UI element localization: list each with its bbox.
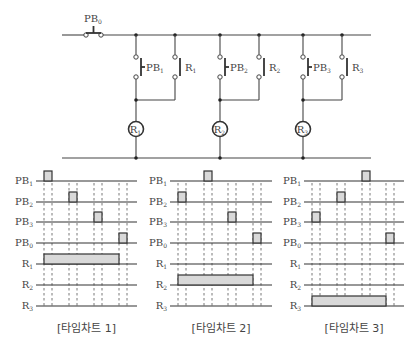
signal-pulse [362, 171, 370, 181]
signal-pulse [312, 212, 320, 222]
pb-contact-top [301, 55, 305, 59]
signal-row-r2: R2 [290, 279, 404, 291]
relay-contact-bottom [257, 75, 261, 79]
timing-charts: PB1PB2PB3PB0R1R2R3[타임차트 1]PB1PB2PB3PB0R1… [15, 171, 404, 335]
signal-pulse [178, 192, 186, 202]
chart-caption: [타임차트 1] [57, 322, 116, 335]
signal-row-pb0: PB0 [149, 233, 272, 249]
signal-row-pb2: PB2 [149, 192, 272, 208]
signal-label: PB3 [149, 216, 167, 228]
branch-1: PB1R1R1 [129, 33, 197, 160]
pb-contact-bottom [301, 75, 305, 79]
signal-label: R2 [22, 279, 34, 291]
timing-chart-3: PB1PB2PB3PB0R1R2R3[타임차트 3] [283, 171, 404, 335]
timing-chart-1: PB1PB2PB3PB0R1R2R3[타임차트 1] [15, 171, 137, 335]
signal-pulse [44, 171, 52, 181]
relay-contact-bottom [340, 75, 344, 79]
relay-contact-top [173, 55, 177, 59]
signal-row-r1: R1 [22, 254, 137, 270]
chart-caption: [타임차트 3] [324, 322, 383, 335]
junction-dot [218, 98, 222, 102]
branch-3: PB3R3R3 [296, 33, 364, 160]
junction-dot [134, 98, 138, 102]
signal-label: PB0 [149, 237, 167, 249]
signal-label: PB1 [15, 175, 33, 187]
relay-ladder-circuit: PB0PB1R1R1PB2R2R2PB3R3R3 [62, 13, 371, 160]
relay-contact-top [257, 55, 261, 59]
pb3-label: PB3 [313, 62, 331, 74]
signal-label: PB0 [283, 237, 301, 249]
timing-chart-2: PB1PB2PB3PB0R1R2R3[타임차트 2] [149, 171, 272, 335]
signal-row-r2: R2 [22, 279, 137, 291]
signal-pulse [94, 212, 102, 222]
junction-dot [134, 156, 138, 160]
pb-contact-bottom [134, 75, 138, 79]
signal-label: R3 [22, 300, 34, 312]
signal-label: PB2 [283, 196, 301, 208]
signal-label: R1 [156, 258, 167, 270]
signal-pulse [228, 212, 236, 222]
pb1-label: PB1 [146, 62, 164, 74]
branch-2: PB2R2R2 [213, 33, 281, 160]
signal-pulse [312, 296, 386, 306]
signal-pulse [204, 171, 212, 181]
signal-label: PB1 [283, 175, 301, 187]
r3-contact-label: R3 [352, 62, 364, 74]
signal-row-pb3: PB3 [149, 212, 272, 228]
signal-label: PB3 [283, 216, 301, 228]
signal-pulse [69, 192, 77, 202]
signal-label: R2 [290, 279, 302, 291]
signal-row-r3: R3 [22, 300, 137, 312]
relay-circuit-and-timing-charts: PB0PB1R1R1PB2R2R2PB3R3R3 PB1PB2PB3PB0R1R… [0, 0, 419, 347]
junction-dot [218, 156, 222, 160]
signal-row-r3: R3 [156, 300, 272, 312]
pb-contact-top [134, 55, 138, 59]
signal-label: PB1 [149, 175, 167, 187]
pb-contact-top [218, 55, 222, 59]
signal-pulse [253, 233, 261, 243]
signal-row-r3: R3 [290, 296, 404, 312]
signal-row-r1: R1 [156, 258, 272, 270]
signal-pulse [178, 275, 253, 285]
signal-label: R1 [22, 258, 33, 270]
signal-label: R3 [290, 300, 302, 312]
pb0-label: PB0 [84, 13, 102, 25]
signal-label: PB2 [149, 196, 167, 208]
signal-row-pb0: PB0 [283, 233, 404, 249]
signal-label: PB3 [15, 216, 33, 228]
signal-label: R2 [156, 279, 168, 291]
pb2-label: PB2 [230, 62, 248, 74]
r2-contact-label: R2 [269, 62, 281, 74]
signal-pulse [337, 192, 345, 202]
signal-row-pb0: PB0 [15, 233, 137, 249]
chart-caption: [타임차트 2] [191, 322, 250, 335]
signal-label: R1 [290, 258, 301, 270]
relay-contact-top [340, 55, 344, 59]
signal-row-pb1: PB1 [149, 171, 272, 187]
r1-contact-label: R1 [185, 62, 196, 74]
signal-row-r2: R2 [156, 275, 272, 291]
pb-contact-bottom [218, 75, 222, 79]
relay-contact-bottom [173, 75, 177, 79]
signal-pulse [386, 233, 394, 243]
signal-pulse [119, 233, 127, 243]
signal-pulse [44, 254, 119, 264]
junction-dot [301, 98, 305, 102]
signal-label: PB0 [15, 237, 33, 249]
signal-label: R3 [156, 300, 168, 312]
signal-label: PB2 [15, 196, 33, 208]
junction-dot [301, 156, 305, 160]
signal-row-r1: R1 [290, 258, 404, 270]
